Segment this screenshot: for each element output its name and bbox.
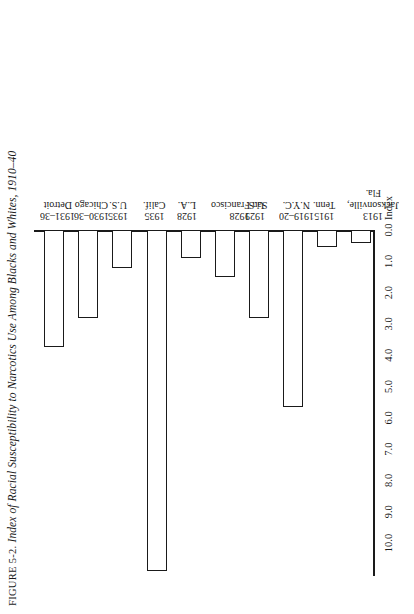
category-place: Tenn. (313, 199, 335, 211)
category-place: L.A. (177, 199, 197, 211)
bar (249, 230, 269, 318)
bar (317, 230, 337, 247)
category-place: Calif. (143, 199, 166, 211)
category-year: 1915 (313, 211, 335, 223)
bar (147, 230, 167, 571)
category-label: 1915Tenn. (313, 199, 335, 222)
category-year: 1931–36 (40, 211, 75, 223)
category-label: 1913Jacksonville,Fla. (347, 188, 399, 223)
value-tick-label: 2.0 (383, 286, 394, 299)
category-place: Detroit (40, 199, 75, 211)
category-label: 1928San Francisco (211, 199, 267, 222)
category-year: 1928 (177, 211, 197, 223)
category-label: 1928L.A. (177, 199, 197, 222)
bar (181, 230, 201, 258)
category-label: 1930–36Chicago (74, 199, 109, 222)
category-year: 1930–36 (74, 211, 109, 223)
figure-stage: FIGURE 5-2. Index of Racial Susceptibili… (0, 0, 414, 614)
page-title: FIGURE 5-2. Index of Racial Susceptibili… (6, 151, 18, 606)
bar-chart-plot: Index 0.01.02.03.04.05.06.07.08.09.010.0… (34, 230, 375, 576)
category-label: 1931–36Detroit (40, 199, 75, 222)
bar (215, 230, 235, 277)
category-place: U.S. (108, 199, 128, 211)
value-tick-label: 5.0 (383, 380, 394, 393)
category-label: 1919–20N.Y.C. (279, 199, 314, 222)
bar (112, 230, 132, 268)
category-label: 1935Calif. (143, 199, 166, 222)
value-tick-label: 0.0 (383, 223, 394, 236)
category-place-2: Fla. (347, 188, 399, 200)
value-tick-label: 3.0 (383, 317, 394, 330)
category-place: Chicago (74, 199, 109, 211)
category-label: 1935U.S. (108, 199, 128, 222)
bar (351, 230, 371, 243)
value-tick-label: 10.0 (383, 534, 394, 552)
category-year: 1913 (347, 211, 399, 223)
bar (44, 230, 64, 347)
figure-title-text: Index of Racial Susceptibility to Narcot… (6, 151, 18, 543)
value-tick-label: 7.0 (383, 443, 394, 456)
value-tick-label: 4.0 (383, 349, 394, 362)
value-tick-label: 6.0 (383, 411, 394, 424)
category-place: Jacksonville, (347, 199, 399, 211)
category-place: San Francisco (211, 199, 267, 211)
bar (283, 230, 303, 407)
bar (78, 230, 98, 318)
value-tick-label: 9.0 (383, 505, 394, 518)
category-year: 1928 (211, 211, 267, 223)
category-year: 1935 (143, 211, 166, 223)
value-tick-label: 8.0 (383, 474, 394, 487)
category-place: N.Y.C. (279, 199, 314, 211)
value-axis-line (373, 230, 375, 576)
value-tick-label: 1.0 (383, 255, 394, 268)
category-year: 1935 (108, 211, 128, 223)
figure-number: FIGURE 5-2. (7, 546, 18, 606)
category-year: 1919–20 (279, 211, 314, 223)
